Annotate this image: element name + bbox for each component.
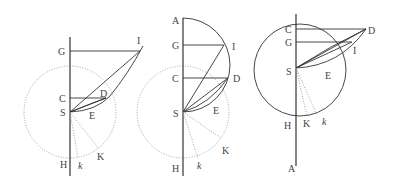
panel-right: C D G I S E H K k A <box>254 14 375 174</box>
label-A: A <box>288 163 296 174</box>
label-C: C <box>172 73 179 84</box>
label-k: k <box>197 160 202 171</box>
radius-SK <box>296 68 307 116</box>
geometry-svg: G I C D S E H K k A G I C D <box>0 0 394 183</box>
label-I: I <box>232 41 235 52</box>
label-H: H <box>284 120 291 131</box>
label-G: G <box>58 46 65 57</box>
label-k: k <box>78 160 83 171</box>
label-K: K <box>97 151 105 162</box>
radius-Sk <box>296 68 317 115</box>
label-k: k <box>322 116 327 127</box>
label-K: K <box>222 145 230 156</box>
circle <box>254 24 346 116</box>
label-H: H <box>172 163 179 174</box>
label-D: D <box>100 88 107 99</box>
label-I: I <box>353 45 356 56</box>
label-S: S <box>286 66 292 77</box>
radius-Sk <box>183 112 198 158</box>
semicircle-AS <box>183 18 230 112</box>
label-E: E <box>89 110 95 121</box>
label-A: A <box>172 15 180 26</box>
diagram-figure: G I C D S E H K k A G I C D <box>0 0 394 183</box>
label-E: E <box>213 105 219 116</box>
chord-SI <box>183 45 224 112</box>
label-E: E <box>325 70 331 81</box>
label-D: D <box>368 25 375 36</box>
label-D: D <box>233 73 240 84</box>
label-K: K <box>303 118 311 129</box>
panel-left: G I C D S E H K k <box>24 35 143 176</box>
label-C: C <box>285 24 292 35</box>
label-G: G <box>172 40 179 51</box>
label-G: G <box>285 37 292 48</box>
radius-Sk <box>70 112 78 158</box>
label-S: S <box>60 107 66 118</box>
chord-SI <box>70 51 140 112</box>
label-S: S <box>173 108 179 119</box>
panel-middle: A G I C D S E H K k <box>137 15 240 176</box>
label-C: C <box>59 93 66 104</box>
arc-SED <box>70 98 106 112</box>
label-H: H <box>60 159 67 170</box>
label-I: I <box>137 35 140 46</box>
